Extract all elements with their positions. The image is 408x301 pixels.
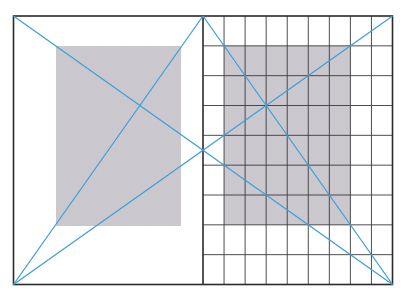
page-layout-diagram: [0, 0, 408, 301]
